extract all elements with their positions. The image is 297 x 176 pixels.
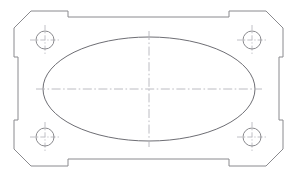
technical-drawing-view (0, 0, 297, 176)
plate-outline (14, 11, 283, 166)
bore-hole-group (36, 31, 261, 146)
cad-drawing-canvas (0, 0, 297, 176)
main-centerline-group (36, 31, 262, 147)
bore-centerline-group (30, 25, 267, 152)
